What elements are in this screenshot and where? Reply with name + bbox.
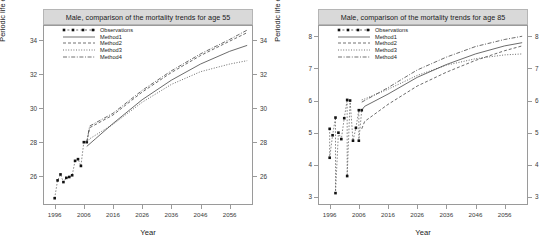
observation-marker <box>56 179 59 182</box>
series-line-method1 <box>87 45 247 146</box>
x-axis-tick-mark <box>330 205 331 209</box>
x-axis-tick-mark <box>417 205 418 209</box>
y-axis-tick-mark <box>39 108 43 109</box>
x-axis-label: Year <box>318 228 528 237</box>
legend-label: Method1 <box>100 34 122 40</box>
x-axis-tick-mark <box>142 205 143 209</box>
y-axis-tick-label: 5 <box>535 129 550 136</box>
y-axis-tick-label: 3 <box>535 193 550 200</box>
y-axis-tick-mark <box>39 142 43 143</box>
legend-item-observations: Observations <box>337 27 408 34</box>
observation-marker <box>68 176 71 179</box>
y-axis-tick-mark <box>528 197 532 198</box>
y-axis-tick-label: 7 <box>535 65 550 72</box>
x-axis-label: Year <box>43 228 253 237</box>
series-line-method3 <box>362 54 522 100</box>
y-axis-tick-label: 5 <box>294 129 312 136</box>
legend-key-icon <box>62 47 96 53</box>
y-axis-tick-mark <box>39 74 43 75</box>
legend-key-icon <box>62 27 96 33</box>
series-line-method3 <box>87 61 247 143</box>
y-axis-tick-mark <box>314 101 318 102</box>
x-axis-tick-label: 1996 <box>44 211 66 218</box>
x-axis-tick-label: 2026 <box>131 211 153 218</box>
x-axis-tick-mark <box>201 205 202 209</box>
observation-marker <box>53 197 56 200</box>
observation-marker <box>59 173 62 176</box>
legend-item-method2: Method2 <box>62 40 133 47</box>
x-axis-tick-mark <box>388 205 389 209</box>
legend-item-method3: Method3 <box>62 47 133 54</box>
x-axis-tick-label: 2056 <box>494 211 516 218</box>
y-axis-tick-mark <box>528 101 532 102</box>
legend-key-icon <box>337 34 371 40</box>
legend-label: Method3 <box>100 47 122 53</box>
x-axis-tick-label: 2036 <box>160 211 182 218</box>
y-axis-tick-mark <box>314 133 318 134</box>
legend-key-icon <box>337 27 371 33</box>
observation-marker <box>77 158 80 161</box>
chart-legend: ObservationsMethod1Method2Method3Method4 <box>337 27 408 60</box>
legend-label: Method1 <box>375 34 397 40</box>
x-axis-tick-label: 2006 <box>73 211 95 218</box>
x-axis-tick-label: 2006 <box>348 211 370 218</box>
x-axis-tick-mark <box>446 205 447 209</box>
y-axis-tick-label: 6 <box>294 97 312 104</box>
x-axis-tick-mark <box>505 205 506 209</box>
y-axis-tick-label: 8 <box>535 33 550 40</box>
legend-item-observations: Observations <box>62 27 133 34</box>
legend-item-method1: Method1 <box>62 34 133 41</box>
x-axis-tick-label: 2046 <box>190 211 212 218</box>
x-axis-tick-mark <box>55 205 56 209</box>
legend-item-method4: Method4 <box>62 53 133 60</box>
y-axis-tick-mark <box>253 74 257 75</box>
observation-marker <box>337 131 340 134</box>
legend-key-icon <box>337 54 371 60</box>
observation-marker <box>331 134 334 137</box>
observation-marker <box>74 160 77 163</box>
y-axis-tick-mark <box>39 176 43 177</box>
legend-label: Method4 <box>100 54 122 60</box>
figure-canvas: Male, comparison of the mortality trends… <box>0 0 550 249</box>
observation-marker <box>346 175 349 178</box>
y-axis-tick-mark <box>39 40 43 41</box>
y-axis-tick-label: 3 <box>294 193 312 200</box>
x-axis-tick-label: 2026 <box>406 211 428 218</box>
y-axis-tick-mark <box>314 197 318 198</box>
x-axis-tick-mark <box>113 205 114 209</box>
y-axis-tick-mark <box>314 36 318 37</box>
observation-marker <box>340 138 343 141</box>
observation-marker <box>358 139 361 142</box>
y-axis-tick-label: 6 <box>535 97 550 104</box>
x-axis-tick-label: 2046 <box>465 211 487 218</box>
y-axis-tick-label: 4 <box>294 161 312 168</box>
legend-label: Method3 <box>375 47 397 53</box>
x-axis-tick-mark <box>230 205 231 209</box>
observations-line <box>55 142 87 198</box>
observation-marker <box>334 192 337 195</box>
y-axis-tick-label: 28 <box>19 139 37 146</box>
x-axis-tick-label: 2056 <box>219 211 241 218</box>
legend-item-method2: Method2 <box>337 40 408 47</box>
observation-marker <box>358 109 361 112</box>
x-axis-tick-label: 2016 <box>377 211 399 218</box>
legend-label: Method4 <box>375 54 397 60</box>
x-axis-tick-label: 1996 <box>319 211 341 218</box>
legend-item-method4: Method4 <box>337 53 408 60</box>
y-axis-tick-mark <box>314 165 318 166</box>
observation-marker <box>349 99 352 102</box>
observation-marker <box>352 139 355 142</box>
chart-legend: ObservationsMethod1Method2Method3Method4 <box>62 27 133 60</box>
y-axis-tick-mark <box>253 142 257 143</box>
chart-panel-age-55: Male, comparison of the mortality trends… <box>0 0 275 249</box>
y-axis-tick-label: 30 <box>19 105 37 112</box>
legend-label: Observations <box>375 27 408 33</box>
y-axis-tick-label: 4 <box>535 161 550 168</box>
x-axis-tick-mark <box>84 205 85 209</box>
observation-marker <box>328 156 331 159</box>
observation-marker <box>62 181 65 184</box>
observation-marker <box>65 177 68 180</box>
legend-label: Method2 <box>375 40 397 46</box>
y-axis-tick-label: 26 <box>19 173 37 180</box>
chart-panel-age-85: Male, comparison of the mortality trends… <box>275 0 550 249</box>
